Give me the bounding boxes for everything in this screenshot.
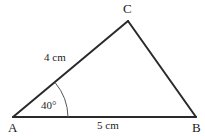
side-length-label-ab: 5 cm — [97, 120, 119, 131]
triangle-svg-canvas — [0, 0, 205, 136]
triangle-figure: C A B 4 cm 5 cm 40° — [0, 0, 205, 136]
vertex-label-a: A — [8, 121, 17, 134]
vertex-label-b: B — [192, 121, 201, 134]
triangle-side-ac — [13, 21, 128, 117]
triangle-side-cb — [128, 21, 196, 117]
vertex-label-c: C — [123, 2, 132, 15]
side-length-label-ac: 4 cm — [44, 52, 66, 63]
angle-measure-label-a: 40° — [41, 100, 56, 111]
angle-arc-a — [55, 83, 68, 117]
